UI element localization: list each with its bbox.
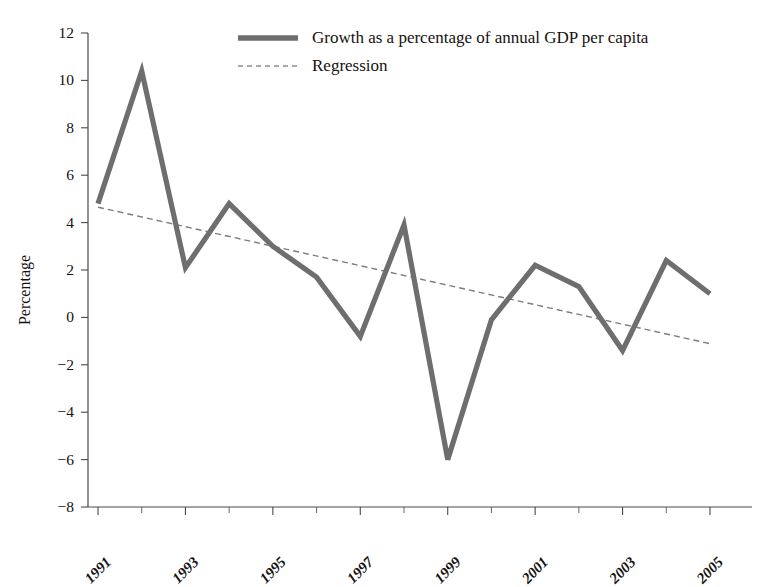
legend-label-growth: Growth as a percentage of annual GDP per… (312, 28, 649, 47)
y-axis-ticks (81, 33, 88, 507)
x-axis-ticks (98, 507, 710, 515)
x-tick-label: 2003 (605, 553, 639, 587)
y-axis-title: Percentage (16, 255, 34, 325)
y-tick-label: 2 (66, 261, 74, 278)
y-tick-label: −2 (58, 356, 75, 373)
y-tick-label: 12 (59, 24, 75, 41)
y-tick-label: −6 (58, 451, 75, 468)
chart-container: 121086420−2−4−6−8 1991199319951997199920… (0, 0, 758, 587)
y-tick-label: 6 (66, 166, 74, 183)
y-tick-label: −8 (58, 498, 75, 515)
y-tick-label: 10 (59, 71, 75, 88)
y-tick-label: −4 (58, 403, 75, 420)
x-tick-label: 1999 (431, 553, 464, 586)
y-tick-label: 8 (66, 119, 74, 136)
y-tick-label: 0 (66, 308, 74, 325)
x-axis-tick-labels: 19911993199519971999200120032005 (82, 553, 727, 587)
legend-label-regression: Regression (312, 56, 388, 75)
x-tick-label: 1991 (82, 554, 115, 587)
growth-series-line-path (98, 71, 710, 460)
y-tick-label: 4 (66, 214, 74, 231)
chart-legend: Growth as a percentage of annual GDP per… (238, 28, 649, 75)
x-tick-label: 1993 (169, 553, 202, 586)
x-tick-label: 1995 (256, 553, 289, 586)
line-chart: 121086420−2−4−6−8 1991199319951997199920… (0, 0, 758, 587)
y-axis-tick-labels: 121086420−2−4−6−8 (58, 24, 75, 515)
x-tick-label: 2001 (518, 554, 551, 587)
x-tick-label: 1997 (344, 553, 377, 586)
x-tick-label: 2005 (693, 553, 727, 587)
